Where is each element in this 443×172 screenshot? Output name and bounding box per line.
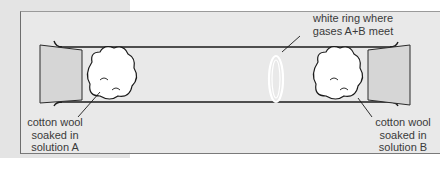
wool-a-label-line-1: cotton wool xyxy=(22,116,88,129)
wool-b-label: cotton wool soaked in solution B xyxy=(363,116,443,154)
cotton-wool-b xyxy=(313,47,362,99)
wool-a-label: cotton wool soaked in solution A xyxy=(22,116,88,154)
right-stopper xyxy=(368,45,410,105)
wool-a-label-line-2: soaked in xyxy=(22,129,88,142)
wool-a-label-line-3: solution A xyxy=(22,141,88,154)
white-ring xyxy=(269,56,283,102)
ring-leader-line xyxy=(282,36,300,52)
ring-label-line-2: gases A+B meet xyxy=(298,25,408,38)
wool-b-leader-line xyxy=(358,98,372,117)
cotton-wool-a xyxy=(87,47,136,99)
left-stopper xyxy=(40,45,82,103)
ring-label-line-1: white ring where xyxy=(298,12,408,25)
wool-b-label-line-2: soaked in xyxy=(363,129,443,142)
ring-label: white ring where gases A+B meet xyxy=(298,12,408,37)
wool-b-label-line-1: cotton wool xyxy=(363,116,443,129)
wool-b-label-line-3: solution B xyxy=(363,141,443,154)
